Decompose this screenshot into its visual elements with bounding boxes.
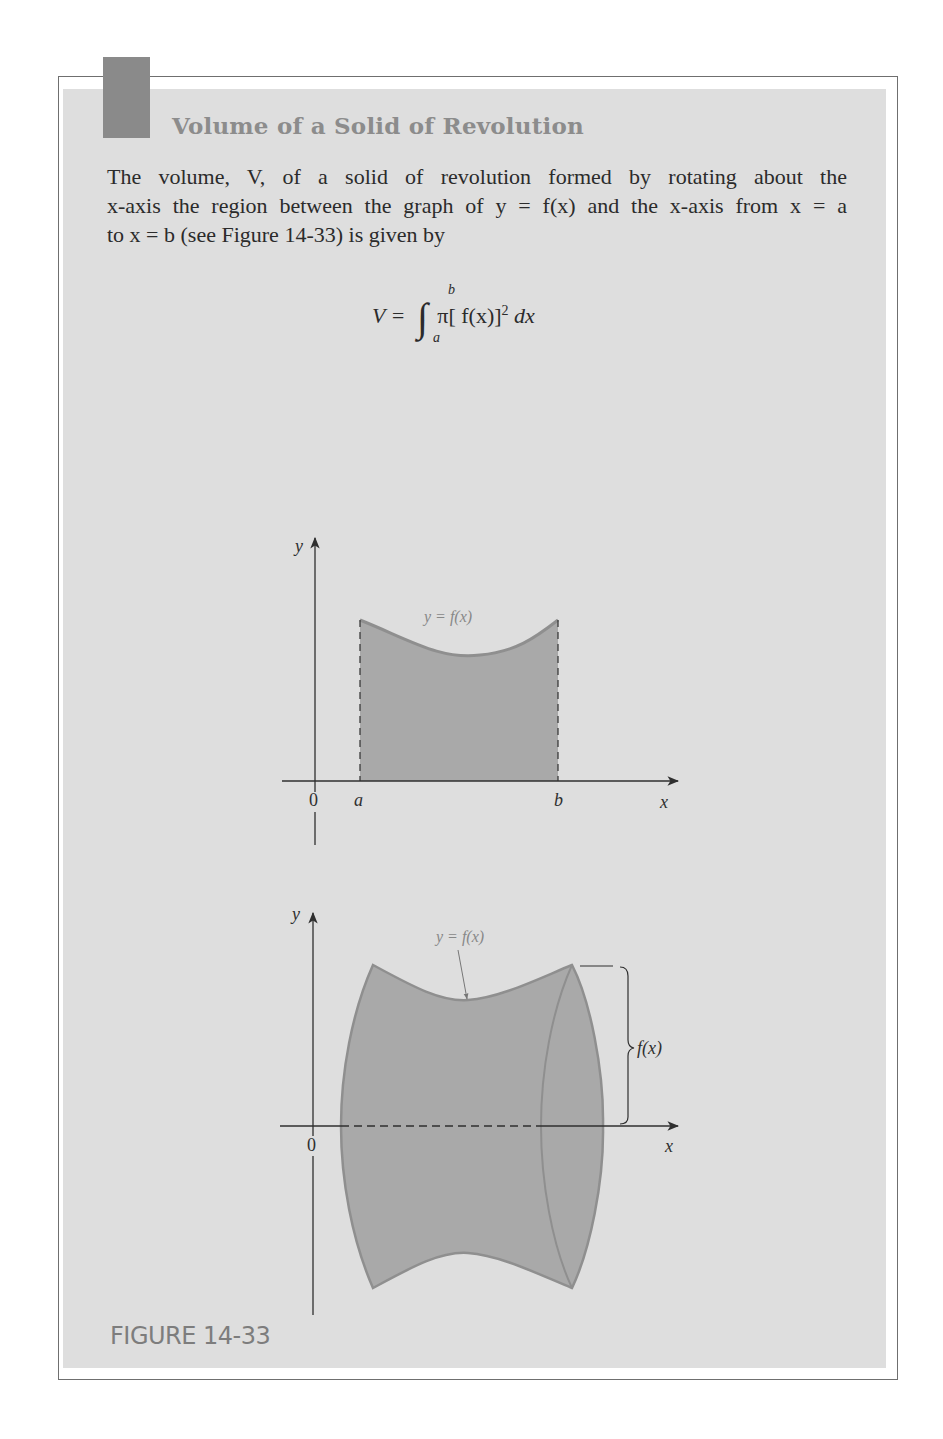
radius-brace — [620, 967, 634, 1124]
shaded-region — [360, 620, 558, 781]
curve-label: y = f(x) — [434, 928, 484, 946]
x-axis-label: x — [664, 1136, 673, 1156]
curve-pointer-arrow — [458, 950, 467, 999]
origin-label: 0 — [309, 790, 318, 810]
figure-solid-of-revolution: y x 0 y = f(x) f(x) — [280, 904, 678, 1315]
a-label: a — [354, 790, 363, 810]
x-axis-label: x — [659, 792, 668, 812]
b-label: b — [554, 790, 563, 810]
curve-label: y = f(x) — [422, 608, 472, 626]
figures-canvas: y x 0 a b y = f(x) y x 0 y = f(x) f(x) — [0, 0, 943, 1439]
origin-label: 0 — [307, 1135, 316, 1155]
y-axis-label: y — [290, 904, 300, 924]
figure-caption: FIGURE 14-33 — [110, 1322, 270, 1350]
figure-region-under-curve: y x 0 a b y = f(x) — [282, 536, 678, 845]
y-axis-label: y — [293, 536, 303, 556]
radius-label: f(x) — [637, 1038, 662, 1059]
